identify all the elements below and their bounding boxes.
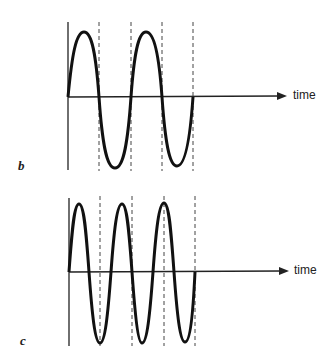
time-axis-label-c: time [294, 263, 317, 277]
panel-label-b: b [18, 158, 25, 174]
arrowhead-c [279, 267, 289, 275]
panel-c [69, 196, 289, 346]
panel-b [68, 22, 287, 171]
arrowhead-b [277, 92, 287, 100]
diagram-canvas [0, 0, 328, 364]
panel-label-c: c [20, 333, 26, 349]
time-axis-label-b: time [293, 88, 316, 102]
